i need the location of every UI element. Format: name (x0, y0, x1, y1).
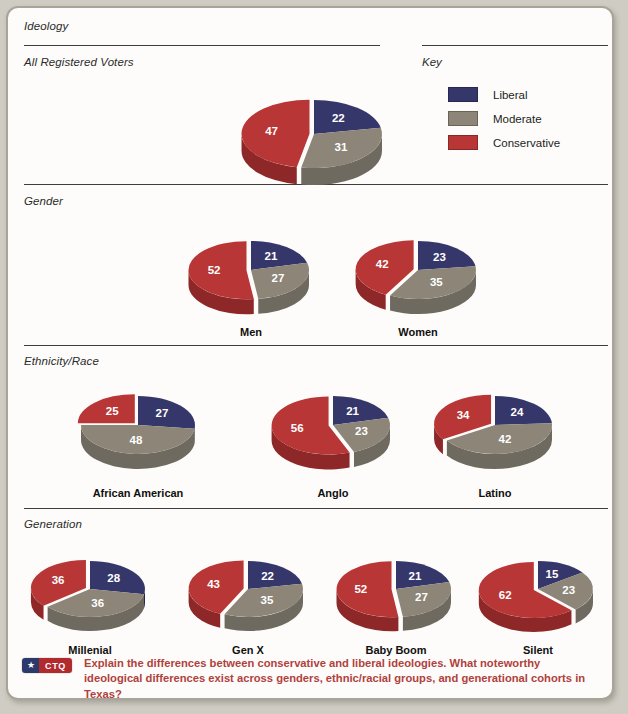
pie-slice-value: 42 (499, 433, 512, 445)
pie-slice-value: 15 (546, 568, 559, 580)
pie-slice-value: 25 (106, 405, 119, 417)
ctq-callout: ★ CTQ Explain the differences between co… (22, 656, 602, 700)
pie-slice-liberal (495, 396, 552, 425)
section-label-ethnicity-race: Ethnicity/Race (24, 355, 99, 367)
pie-slice-value: 27 (156, 407, 169, 419)
pie-category-label: African American (93, 487, 184, 499)
pie-category-label: Millenial (68, 644, 111, 656)
ctq-tag-label: CTQ (39, 658, 72, 673)
key-label-conservative: Conservative (493, 137, 560, 149)
divider-ideology-left (24, 45, 380, 46)
key-label-moderate: Moderate (493, 113, 542, 125)
pie-slice-value: 47 (265, 125, 278, 137)
pie-slice-value: 23 (355, 425, 368, 437)
pie-slice-value: 43 (207, 578, 220, 590)
pie-category-label: Gen X (232, 644, 264, 656)
pie-category-label: Men (240, 326, 262, 338)
pie-chart-all-registered-voters: 223147 (220, 74, 408, 215)
pie-slice-value: 56 (291, 422, 304, 434)
pie-category-label: Silent (523, 644, 553, 656)
key-item-liberal: Liberal (448, 87, 528, 102)
pie-slice-liberal (418, 241, 476, 270)
pie-slice-value: 27 (415, 591, 428, 603)
pie-chart-anglo: 212356 (250, 370, 416, 499)
key-item-conservative: Conservative (448, 135, 560, 150)
pie-chart-men: 212752 (167, 215, 335, 344)
pie-slice-value: 52 (208, 264, 221, 276)
pie-slice-value: 23 (433, 251, 446, 263)
pie-slice-value: 34 (457, 409, 470, 421)
pie-chart-women: 233542 (334, 215, 502, 344)
ctq-badge: ★ CTQ (22, 658, 72, 673)
pie-chart-silent: 152362 (457, 535, 614, 661)
key-item-moderate: Moderate (448, 111, 542, 126)
pie-slice-value: 36 (52, 574, 65, 586)
key-swatch-liberal (448, 87, 478, 102)
pie-slice-value: 21 (409, 570, 422, 582)
pie-chart-african-american: 274825 (55, 370, 221, 499)
pie-chart-millenial: 283636 (9, 535, 171, 661)
pie-slice-value: 28 (107, 572, 120, 584)
pie-slice-value: 31 (335, 141, 348, 153)
pie-slice-value: 21 (346, 405, 359, 417)
pie-slice-value: 22 (332, 112, 345, 124)
pie-category-label: Anglo (317, 487, 348, 499)
pie-chart-gen-x: 223543 (167, 535, 329, 661)
divider-generation (24, 508, 608, 509)
pie-chart-baby-boom: 212752 (315, 535, 477, 661)
divider-ethnicity (24, 345, 608, 346)
key-label-liberal: Liberal (493, 89, 528, 101)
pie-slice-value: 27 (272, 272, 285, 284)
infographic-card: Ideology All Registered Voters Key Liber… (6, 6, 614, 700)
section-label-all-registered-voters: All Registered Voters (24, 56, 134, 68)
pie-slice-value: 35 (430, 276, 443, 288)
pie-category-label: Baby Boom (365, 644, 426, 656)
pie-category-label: Latino (479, 487, 512, 499)
pie-slice-value: 48 (130, 434, 143, 446)
key-swatch-conservative (448, 135, 478, 150)
divider-ideology-right (422, 45, 608, 46)
pie-slice-value: 24 (511, 406, 524, 418)
pie-slice-value: 35 (261, 594, 274, 606)
pie-chart-latino: 244234 (412, 370, 578, 499)
section-label-ideology: Ideology (24, 20, 68, 32)
pie-category-label: Women (398, 326, 438, 338)
page-background: Ideology All Registered Voters Key Liber… (0, 0, 628, 714)
section-label-generation: Generation (24, 518, 82, 530)
pie-slice-value: 21 (265, 250, 278, 262)
section-label-gender: Gender (24, 195, 63, 207)
star-icon: ★ (22, 658, 39, 673)
pie-slice-value: 42 (376, 258, 389, 270)
pie-slice-value: 36 (91, 597, 104, 609)
key-title: Key (422, 56, 442, 68)
pie-slice-value: 52 (354, 583, 367, 595)
pie-slice-value: 23 (562, 584, 575, 596)
pie-slice-value: 22 (261, 570, 274, 582)
pie-slice-value: 62 (499, 589, 512, 601)
key-swatch-moderate (448, 111, 478, 126)
ctq-question-text: Explain the differences between conserva… (84, 656, 596, 700)
